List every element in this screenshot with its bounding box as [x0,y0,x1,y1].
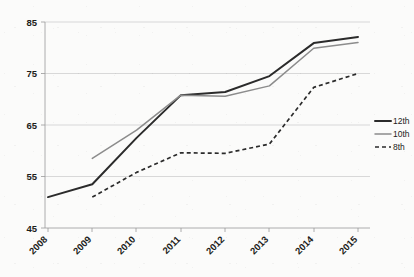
ytick-label-45: 45 [26,223,37,234]
xtick-label-2010: 2010 [115,234,138,257]
xtick-label-2014: 2014 [293,233,316,256]
ytick-label-55: 55 [26,171,37,182]
y-axis-labels: 85 75 65 55 45 [26,17,37,234]
ytick-label-75: 75 [26,68,37,79]
xtick-label-2009: 2009 [71,234,94,257]
legend: 12th 10th 8th [375,116,410,152]
xtick-label-2015: 2015 [337,233,360,256]
legend-label-8th: 8th [393,142,405,152]
series-line-12th [48,37,358,197]
ytick-label-85: 85 [26,17,37,28]
xtick-label-2012: 2012 [204,234,227,257]
y-axis-ticks [41,22,45,228]
x-axis-labels: 2008 2009 2010 2011 2012 2013 2014 2015 [27,233,360,256]
legend-label-10th: 10th [393,129,410,139]
gridlines [45,22,370,177]
ytick-label-65: 65 [26,120,37,131]
line-chart: 85 75 65 55 45 2008 2009 2010 2011 2012 … [0,0,414,277]
xtick-label-2011: 2011 [160,233,183,256]
legend-label-12th: 12th [393,116,410,126]
xtick-label-2008: 2008 [27,234,50,257]
data-series [48,37,358,197]
x-axis-ticks [48,228,358,232]
chart-canvas: 85 75 65 55 45 2008 2009 2010 2011 2012 … [0,0,414,277]
xtick-label-2013: 2013 [248,234,271,257]
